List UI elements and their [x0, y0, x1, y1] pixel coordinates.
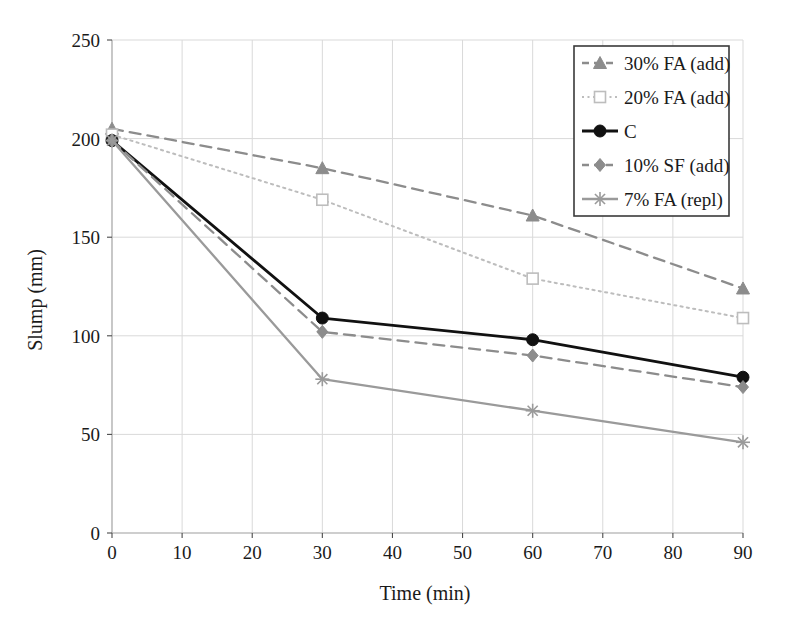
y-tick-label: 250 — [72, 30, 101, 51]
data-point-marker-circle — [594, 125, 606, 137]
data-point-marker-square — [527, 273, 538, 284]
data-point-marker-star — [105, 134, 119, 148]
chart-svg: 0102030405060708090 050100150200250 Time… — [0, 0, 793, 622]
x-tick-label: 90 — [734, 542, 753, 563]
y-tick-label: 0 — [91, 523, 101, 544]
data-point-marker-square — [738, 313, 749, 324]
y-tick-label: 150 — [72, 227, 101, 248]
legend-item-label: 7% FA (repl) — [624, 189, 723, 211]
chart-legend: 30% FA (add)20% FA (add)C10% SF (add)7% … — [574, 46, 730, 216]
data-point-marker-star — [526, 404, 540, 418]
data-point-marker-star — [315, 372, 329, 386]
legend-item-label: 10% SF (add) — [624, 155, 730, 177]
y-tick-label: 200 — [72, 129, 101, 150]
data-point-marker-circle — [316, 312, 328, 324]
data-point-marker-circle — [527, 334, 539, 346]
legend-item-label: 30% FA (add) — [624, 53, 730, 75]
x-tick-label: 80 — [663, 542, 682, 563]
data-point-marker-star — [593, 192, 607, 206]
x-tick-label: 0 — [107, 542, 117, 563]
legend-item-label: C — [624, 121, 637, 142]
x-tick-label: 60 — [523, 542, 542, 563]
data-point-marker-square — [317, 194, 328, 205]
x-tick-label: 30 — [313, 542, 332, 563]
data-point-marker-star — [736, 435, 750, 449]
legend-item-label: 20% FA (add) — [624, 87, 730, 109]
x-tick-label: 20 — [243, 542, 262, 563]
x-axis-title: Time (min) — [380, 582, 471, 605]
y-tick-label: 50 — [81, 424, 100, 445]
x-tick-label: 50 — [453, 542, 472, 563]
y-axis-title: Slump (mm) — [24, 249, 47, 351]
x-tick-label: 40 — [383, 542, 402, 563]
data-point-marker-square — [595, 92, 606, 103]
slump-vs-time-chart: 0102030405060708090 050100150200250 Time… — [0, 0, 793, 622]
x-tick-label: 70 — [593, 542, 612, 563]
y-tick-label: 100 — [72, 326, 101, 347]
x-tick-label: 10 — [173, 542, 192, 563]
